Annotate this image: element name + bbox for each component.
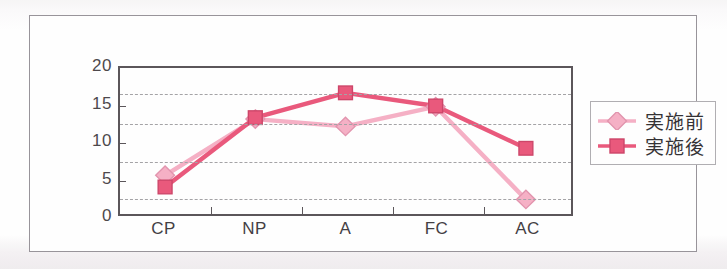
x-axis-tick — [393, 207, 394, 214]
x-axis-tick — [302, 207, 303, 214]
gridline — [120, 124, 571, 125]
y-axis-tick-label: 15 — [82, 94, 112, 114]
y-axis-tick — [120, 143, 126, 144]
x-axis-tick — [211, 207, 212, 214]
square-marker — [248, 111, 262, 125]
plot-area — [118, 66, 573, 216]
chart-legend: 実施前実施後 — [590, 101, 716, 165]
legend-label: 実施後 — [645, 132, 705, 159]
legend-entry: 実施後 — [597, 133, 705, 158]
y-axis-labels: 05101520 — [82, 66, 112, 216]
legend-square-icon — [597, 137, 637, 155]
y-axis-tick-label: 10 — [82, 131, 112, 151]
diamond-marker — [608, 112, 627, 130]
gridline — [120, 94, 571, 95]
figure-outer-frame: 05101520 CPNPAFCAC 実施前実施後 — [29, 15, 697, 252]
square-marker — [429, 99, 443, 113]
y-axis-tick-label: 5 — [82, 169, 112, 189]
y-axis-tick-label: 0 — [82, 206, 112, 226]
gridline — [120, 199, 571, 200]
chart-screenshot: 05101520 CPNPAFCAC 実施前実施後 — [0, 0, 727, 269]
diamond-marker — [336, 117, 355, 135]
y-axis-tick-label: 20 — [82, 56, 112, 76]
x-axis-category-label-a: A — [300, 219, 391, 245]
legend-diamond-icon — [597, 112, 637, 130]
y-axis-tick — [120, 181, 126, 182]
x-axis-tick — [484, 207, 485, 214]
square-marker — [519, 141, 533, 155]
y-axis-tick — [120, 106, 126, 107]
x-axis-category-label-np: NP — [209, 219, 300, 245]
legend-label: 実施前 — [645, 107, 705, 134]
x-axis-labels: CPNPAFCAC — [118, 219, 573, 245]
gridline — [120, 162, 571, 163]
series-overlay — [120, 68, 571, 214]
x-axis-category-label-cp: CP — [118, 219, 209, 245]
legend-entry: 実施前 — [597, 108, 705, 133]
square-marker — [339, 86, 353, 100]
square-marker — [158, 180, 172, 194]
x-axis-category-label-fc: FC — [391, 219, 482, 245]
square-marker — [610, 139, 624, 153]
x-axis-category-label-ac: AC — [482, 219, 573, 245]
